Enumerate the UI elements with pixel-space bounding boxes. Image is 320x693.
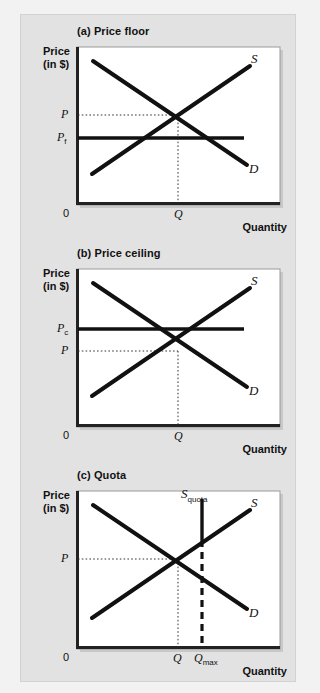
- supply-curve-label-b: S: [251, 273, 258, 289]
- x-tick-q-a: Q: [174, 207, 183, 222]
- figure-container: (a) Price floor Price (in $) P Pf Q 0 S: [20, 14, 296, 682]
- supply-curve-label-a: S: [251, 51, 258, 67]
- x-tick-qmax-c: Qmax: [194, 651, 218, 667]
- x-tick-q-c: Q: [173, 651, 182, 666]
- x-axis-label-c: Quantity: [242, 665, 287, 678]
- origin-label-a: 0: [63, 207, 69, 219]
- panel-quota: (c) Quota Price (in $) P Q Qmax 0 Squot: [21, 459, 295, 681]
- plot-area-c: [21, 459, 295, 681]
- x-axis-label-a: Quantity: [242, 221, 287, 234]
- demand-curve-label-a: D: [249, 161, 258, 177]
- origin-label-b: 0: [63, 429, 69, 441]
- y-tick-p-c: P: [61, 551, 68, 566]
- quota-supply-curve-label-c: Squota: [181, 486, 208, 504]
- x-tick-q-b: Q: [174, 429, 183, 444]
- y-tick-price-ceiling-b: Pc: [57, 321, 68, 337]
- demand-curve-label-b: D: [249, 383, 258, 399]
- supply-curve-label-c: S: [251, 495, 258, 511]
- panel-price-floor: (a) Price floor Price (in $) P Pf Q 0 S: [21, 15, 295, 237]
- demand-curve-label-c: D: [249, 605, 258, 621]
- panel-price-ceiling: (b) Price ceiling Price (in $) Pc P Q 0 …: [21, 237, 295, 459]
- origin-label-c: 0: [63, 651, 69, 663]
- y-tick-price-floor-a: Pf: [57, 130, 67, 146]
- y-tick-p-b: P: [61, 343, 68, 358]
- plot-area-a: [21, 15, 295, 237]
- y-tick-p-a: P: [61, 107, 68, 122]
- x-axis-label-b: Quantity: [242, 443, 287, 456]
